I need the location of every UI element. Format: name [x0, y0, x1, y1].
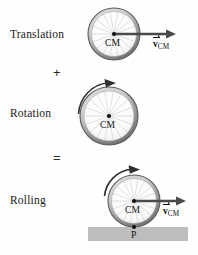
wheel-rotation-svg	[0, 80, 198, 170]
rolling-motion-diagram: Translation	[0, 0, 198, 255]
cm-label-translation: CM	[105, 38, 120, 48]
operator-plus: +	[53, 66, 61, 79]
operator-equals: =	[53, 151, 61, 164]
cm-dot-icon	[107, 114, 111, 118]
contact-point-label: P	[131, 230, 136, 240]
cm-label-rolling: CM	[125, 205, 140, 215]
wheel-rotation	[0, 80, 198, 170]
cm-label-rotation: CM	[100, 120, 115, 130]
cm-dot-icon	[132, 199, 136, 203]
ground-surface	[88, 227, 188, 241]
contact-point-icon	[132, 225, 136, 229]
velocity-label-rolling: vCM	[163, 206, 179, 218]
velocity-label-translation: vCM	[153, 39, 169, 51]
velocity-subscript: CM	[158, 43, 170, 51]
cm-dot-icon	[112, 32, 116, 36]
velocity-symbol: v	[163, 206, 168, 216]
velocity-symbol: v	[153, 39, 158, 49]
velocity-subscript: CM	[168, 210, 180, 218]
